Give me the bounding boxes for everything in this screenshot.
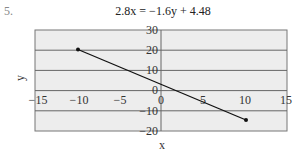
x-tick: −10 (70, 93, 89, 107)
y-axis-label: y (13, 75, 27, 81)
y-tick: −20 (139, 124, 158, 138)
data-point (76, 48, 80, 52)
y-tick: 30 (146, 23, 158, 37)
y-tick: 10 (146, 63, 158, 77)
y-tick: 20 (146, 43, 158, 57)
line-chart: 30 20 10 0 −10 −20 −15 −10 −5 0 5 10 15 … (0, 0, 296, 152)
x-tick: −15 (29, 93, 48, 107)
data-point (244, 118, 248, 122)
x-tick: −5 (114, 93, 127, 107)
x-tick: 0 (158, 93, 164, 107)
x-axis-label: x (159, 138, 165, 152)
y-tick: −10 (139, 104, 158, 118)
x-tick: 10 (239, 93, 251, 107)
x-tick: 15 (280, 93, 292, 107)
x-tick: 5 (200, 93, 206, 107)
